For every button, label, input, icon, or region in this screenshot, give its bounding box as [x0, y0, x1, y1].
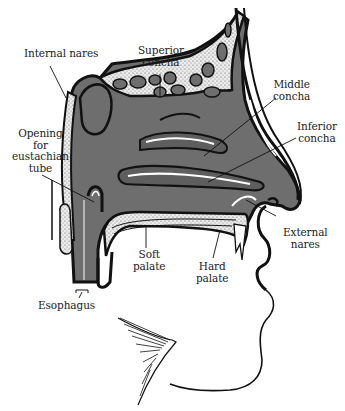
label-external-nares: External nares [283, 227, 328, 250]
label-superior-concha: Superior concha [138, 45, 184, 68]
label-internal-nares: Internal nares [24, 48, 98, 60]
neck-hatching [120, 318, 170, 396]
front-teeth [234, 224, 246, 260]
chin-outline [170, 290, 274, 391]
pharynx-lower-contour [98, 252, 112, 287]
label-inferior-concha: Inferior concha [297, 121, 337, 144]
label-hard-palate: Hard palate [196, 261, 228, 284]
nasal-cavity-diagram: Internal nares Superior concha Middle co… [0, 0, 345, 411]
sphenoid-sinus [80, 84, 111, 134]
label-soft-palate: Soft palate [133, 249, 165, 272]
upper-lip [257, 206, 270, 290]
label-esophagus: Esophagus [38, 300, 95, 312]
label-middle-concha: Middle concha [273, 79, 310, 102]
vertebra [60, 204, 72, 254]
label-opening-for-eustachian-tube: Opening for eustachian tube [12, 128, 69, 174]
